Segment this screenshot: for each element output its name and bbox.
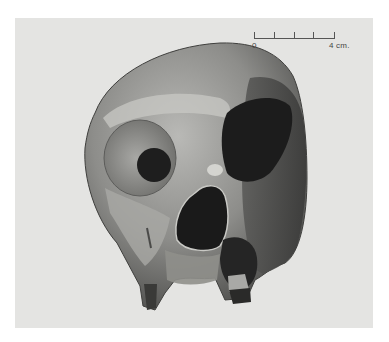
scale-tick bbox=[274, 32, 275, 39]
scale-bar: 0 4 cm. bbox=[253, 28, 353, 60]
scale-tick bbox=[334, 32, 335, 39]
scale-start-label: 0 bbox=[252, 41, 257, 50]
scale-tick bbox=[254, 32, 255, 39]
scale-tick bbox=[294, 32, 295, 39]
specimen-photograph: 0 4 cm. bbox=[15, 18, 373, 328]
scale-end-label: 4 cm. bbox=[329, 41, 350, 50]
skull-image bbox=[15, 18, 373, 328]
scale-tick bbox=[313, 32, 314, 39]
